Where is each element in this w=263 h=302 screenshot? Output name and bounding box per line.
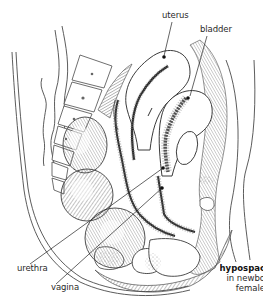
label-vagina: vagina (51, 283, 79, 292)
label-urethra: urethra (17, 264, 48, 273)
label-bladder: bladder (200, 25, 232, 34)
figure-caption: hypospac in newbo female (220, 263, 263, 293)
caption-line-3: female (220, 283, 263, 293)
caption-title: hypospac (220, 263, 263, 273)
label-uterus: uterus (162, 11, 189, 20)
anatomy-figure: uterus bladder urethra vagina hypospac i… (0, 0, 263, 302)
caption-line-2: in newbo (220, 273, 263, 283)
pelvis-illustration (0, 0, 263, 302)
